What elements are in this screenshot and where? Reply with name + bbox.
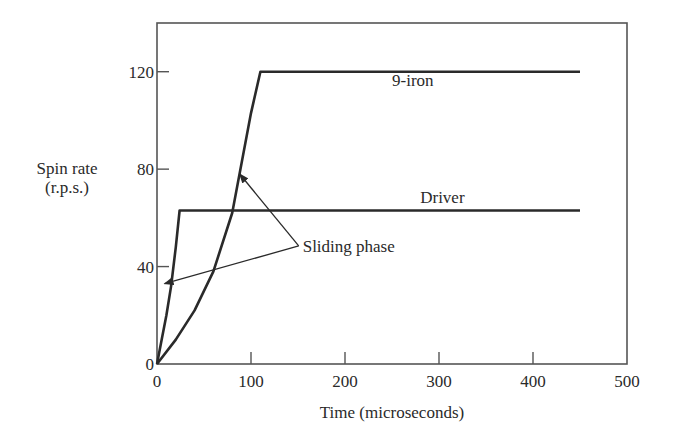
y-axis-label: Spin rate [37,159,98,178]
y-tick-label: 40 [137,258,154,277]
annotation-driver: Driver [420,188,465,207]
annotations: 9-ironDriverSliding phase [165,71,465,283]
y-axis-label: (r.p.s.) [45,178,89,197]
series-9-iron [157,72,580,364]
annotation-9-iron: 9-iron [392,71,434,90]
annotation-arrow [165,246,299,284]
y-tick-label: 120 [129,63,155,82]
x-tick-label: 300 [426,372,452,391]
x-tick-label: 400 [520,372,546,391]
series-driver [157,211,580,365]
y-tick-label: 80 [137,160,154,179]
y-tick-label: 0 [146,355,155,374]
data-series [157,72,580,364]
axis-ticks: 010020030040050004080120 [129,63,640,391]
spin-rate-chart: 010020030040050004080120 9-ironDriverSli… [0,0,676,447]
x-tick-label: 500 [614,372,640,391]
x-tick-label: 0 [153,372,162,391]
annotation-sliding-phase: Sliding phase [303,237,395,256]
x-axis-label: Time (microseconds) [320,403,464,422]
x-tick-label: 200 [332,372,358,391]
x-tick-label: 100 [238,372,264,391]
